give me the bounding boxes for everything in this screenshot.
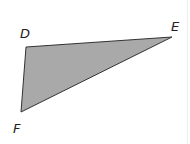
triangle-diagram: D E F: [0, 0, 190, 144]
vertex-label-e: E: [171, 19, 180, 34]
vertex-label-d: D: [20, 26, 30, 41]
triangle-def: [21, 37, 172, 112]
vertex-label-f: F: [13, 121, 21, 136]
